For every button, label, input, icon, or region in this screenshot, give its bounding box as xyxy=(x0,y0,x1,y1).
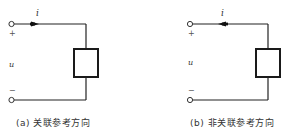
minus-sign: − xyxy=(188,86,195,95)
current-arrow-body xyxy=(222,23,228,26)
figure-b-non-associated: i + u − (b) 非关联参考方向 xyxy=(145,0,291,116)
minus-sign: − xyxy=(9,86,16,95)
current-label: i xyxy=(221,8,224,18)
circuit-b: i + u − xyxy=(145,0,291,116)
terminal-bottom xyxy=(9,97,14,102)
voltage-label: u xyxy=(188,58,193,67)
voltage-label: u xyxy=(9,60,14,69)
plus-sign: + xyxy=(188,29,195,38)
caption-b: (b) 非关联参考方向 xyxy=(190,116,274,129)
figure-a-associated: i + u − (a) 关联参考方向 xyxy=(0,0,145,116)
component-box xyxy=(256,49,280,77)
caption-a: (a) 关联参考方向 xyxy=(16,116,90,129)
circuit-a: i + u − xyxy=(0,0,145,116)
current-arrow-body xyxy=(30,23,35,26)
terminal-bottom xyxy=(187,97,192,102)
terminal-top xyxy=(9,21,14,26)
component-box xyxy=(74,49,98,77)
plus-sign: + xyxy=(9,29,16,38)
terminal-top xyxy=(187,21,192,26)
current-label: i xyxy=(36,8,39,18)
